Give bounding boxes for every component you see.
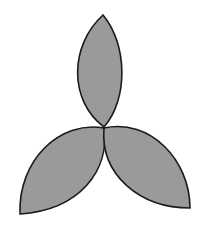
bottom-left-petal	[20, 127, 105, 214]
bottom-right-petal	[104, 127, 190, 208]
three-petal-figure	[0, 0, 197, 226]
top-petal	[78, 15, 122, 127]
